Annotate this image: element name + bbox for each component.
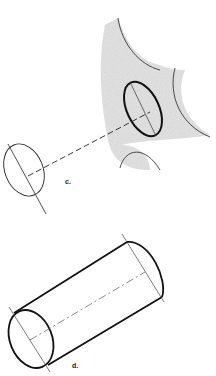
figure-c [0, 18, 210, 214]
cylinder-near-end [0, 303, 61, 374]
source-ellipse [0, 138, 52, 202]
cylinder-far-end [127, 242, 163, 297]
cylinder-top-edge [14, 242, 127, 313]
figure-c-label: c. [65, 178, 71, 185]
source-ellipse-axis [8, 144, 46, 214]
near-end-axis [9, 307, 50, 372]
figure-d [0, 234, 164, 375]
cylinder-bottom-edge [48, 297, 162, 365]
technical-drawing [0, 0, 216, 376]
figure-d-label: d. [72, 362, 78, 369]
cylinder-center-axis [30, 272, 145, 340]
